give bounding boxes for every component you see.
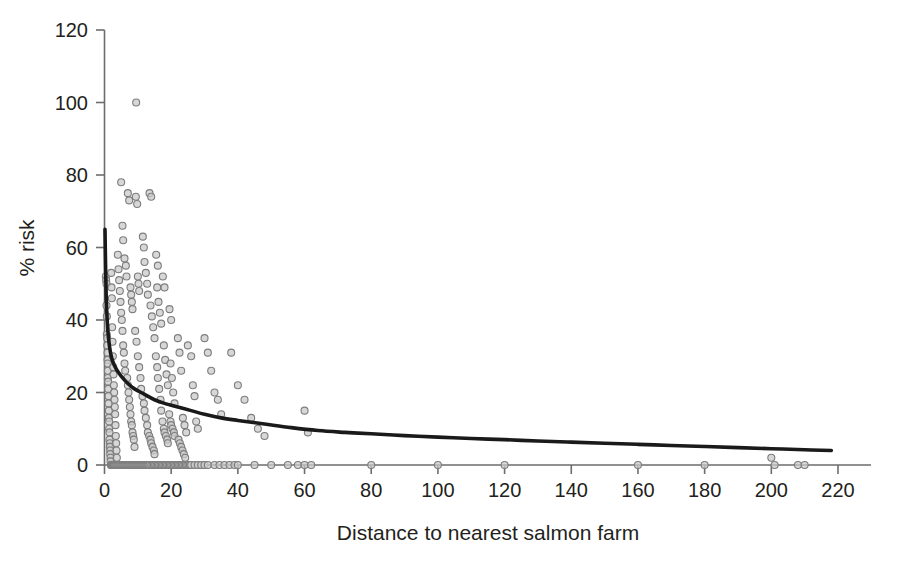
data-point [140, 244, 147, 251]
data-point [141, 259, 148, 266]
data-point [153, 251, 160, 258]
data-point [133, 99, 140, 106]
data-point [129, 306, 136, 313]
data-point [193, 418, 200, 425]
data-point [268, 462, 275, 469]
data-point [132, 327, 139, 334]
scatter-plot-svg: 020406080100120 020406080100120140160180… [0, 0, 897, 567]
data-point [154, 375, 161, 382]
data-point [128, 298, 135, 305]
fitted-risk-curve [105, 229, 831, 450]
data-point [116, 277, 123, 284]
data-point [154, 262, 161, 269]
data-point [120, 349, 127, 356]
data-point [144, 422, 151, 429]
data-point [111, 389, 118, 396]
data-point [106, 429, 113, 436]
x-axis-title: Distance to nearest salmon farm [337, 521, 639, 544]
data-point [228, 349, 235, 356]
data-point [158, 407, 165, 414]
data-point [118, 309, 125, 316]
data-point [184, 342, 191, 349]
data-point [111, 404, 118, 411]
data-point [144, 280, 151, 287]
data-point [160, 342, 167, 349]
data-point [116, 288, 123, 295]
x-tick-label-220: 220 [821, 479, 854, 501]
data-point [701, 462, 708, 469]
data-point [294, 462, 301, 469]
y-tick-label-100: 100 [55, 92, 88, 114]
data-point [122, 262, 129, 269]
y-tick-label-80: 80 [66, 164, 88, 186]
data-point [154, 284, 161, 291]
data-point [176, 349, 183, 356]
data-point [164, 440, 171, 447]
data-point [771, 462, 778, 469]
data-point [241, 396, 248, 403]
data-point [144, 291, 151, 298]
data-point [634, 462, 641, 469]
data-point [115, 266, 122, 273]
data-point [140, 400, 147, 407]
x-tick-label-100: 100 [421, 479, 454, 501]
data-point [181, 422, 188, 429]
data-point [161, 284, 168, 291]
data-point [201, 335, 208, 342]
data-point [170, 389, 177, 396]
data-point [112, 433, 119, 440]
data-point [178, 367, 185, 374]
x-tick-label-120: 120 [488, 479, 521, 501]
data-point [139, 233, 146, 240]
data-point [234, 462, 241, 469]
data-point [114, 251, 121, 258]
data-point [158, 320, 165, 327]
data-point [125, 389, 132, 396]
y-tick-label-40: 40 [66, 309, 88, 331]
data-point [135, 280, 142, 287]
data-point [183, 429, 190, 436]
data-point [214, 396, 221, 403]
y-tick-label-60: 60 [66, 237, 88, 259]
data-point [132, 193, 139, 200]
data-point [168, 375, 175, 382]
data-point [124, 190, 131, 197]
data-point [130, 436, 137, 443]
data-point [204, 462, 211, 469]
data-point [166, 411, 173, 418]
x-tick-label-60: 60 [293, 479, 315, 501]
data-point [134, 201, 141, 208]
data-point [204, 349, 211, 356]
x-tick-label-40: 40 [227, 479, 249, 501]
data-point [159, 273, 166, 280]
data-point [147, 302, 154, 309]
x-tick-labels: 020406080100120140160180200220 [99, 479, 855, 501]
data-point [301, 407, 308, 414]
data-point [191, 393, 198, 400]
data-point [234, 382, 241, 389]
data-point [142, 269, 149, 276]
data-point [189, 382, 196, 389]
data-point [110, 382, 117, 389]
y-tick-marks [96, 30, 105, 465]
data-point [194, 425, 201, 432]
data-point [142, 414, 149, 421]
data-point [166, 306, 173, 313]
y-axis-title: % risk [15, 219, 38, 277]
data-point [119, 222, 126, 229]
y-tick-label-120: 120 [55, 19, 88, 41]
data-point [122, 367, 129, 374]
data-point [126, 404, 133, 411]
data-point [148, 193, 155, 200]
data-point [168, 317, 175, 324]
data-point [136, 288, 143, 295]
data-point [121, 255, 128, 262]
data-point [156, 309, 163, 316]
data-point [126, 197, 133, 204]
x-tick-label-140: 140 [555, 479, 588, 501]
data-point [118, 179, 125, 186]
data-point [120, 237, 127, 244]
x-tick-label-80: 80 [360, 479, 382, 501]
x-tick-label-180: 180 [688, 479, 721, 501]
data-point [261, 433, 268, 440]
